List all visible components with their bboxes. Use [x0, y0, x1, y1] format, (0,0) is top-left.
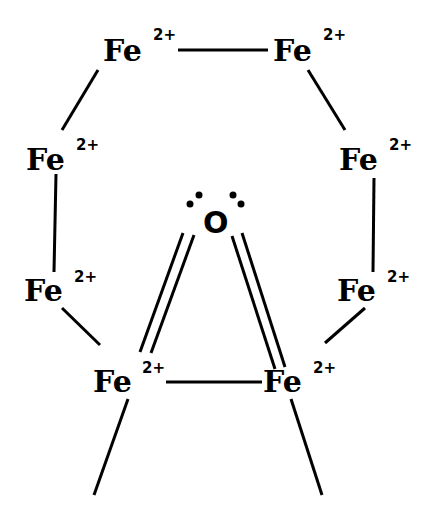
bond-mid-left-to-low-left — [54, 174, 56, 272]
fe-charge: 2+ — [153, 26, 176, 44]
atom-fe-mid-right: Fe 2+ — [339, 136, 412, 177]
lone-pair-right-dot-2 — [238, 201, 245, 208]
fe-charge: 2+ — [389, 136, 412, 154]
atom-fe-low-left: Fe 2+ — [24, 268, 97, 308]
atom-fe-bottom-right: Fe 2+ — [263, 359, 336, 399]
fe-charge: 2+ — [387, 268, 410, 286]
double-bond-right-a — [232, 236, 275, 369]
iron-oxide-ring-diagram: Fe 2+ Fe 2+ Fe 2+ Fe 2+ Fe 2+ Fe 2+ Fe 2… — [0, 0, 430, 524]
fe-symbol: Fe — [339, 142, 378, 177]
fe-symbol: Fe — [273, 33, 312, 68]
atom-oxygen: O — [187, 192, 245, 241]
bond-low-right-to-bottom-right — [325, 308, 365, 343]
bond-bottom-left-tail — [94, 399, 128, 495]
fe-symbol: Fe — [26, 142, 65, 177]
lone-pair-left-dot-1 — [187, 201, 194, 208]
double-bond-right-b — [242, 233, 285, 367]
fe-charge: 2+ — [313, 359, 336, 377]
fe-charge: 2+ — [76, 136, 99, 154]
bonds — [54, 50, 374, 495]
atom-fe-low-right: Fe 2+ — [337, 268, 410, 308]
double-bond-left-a — [140, 233, 183, 352]
bond-top-right-to-mid-right — [308, 70, 345, 130]
double-bond-left-b — [151, 235, 194, 353]
fe-symbol: Fe — [337, 273, 376, 308]
atom-fe-bottom-left: Fe 2+ — [93, 359, 165, 399]
fe-symbol: Fe — [103, 33, 142, 68]
fe-charge: 2+ — [142, 359, 165, 377]
fe-symbol: Fe — [263, 364, 302, 399]
bond-top-left-to-mid-left — [62, 70, 98, 130]
fe-symbol: Fe — [93, 364, 132, 399]
oxygen-symbol: O — [203, 205, 229, 240]
atom-fe-top-right: Fe 2+ — [273, 26, 346, 68]
atom-fe-mid-left: Fe 2+ — [26, 136, 99, 177]
bond-bottom-right-tail — [291, 399, 322, 495]
fe-charge: 2+ — [323, 26, 346, 44]
lone-pair-left-dot-2 — [196, 192, 203, 199]
fe-charge: 2+ — [74, 268, 97, 286]
atom-fe-top-left: Fe 2+ — [103, 26, 176, 68]
bond-low-left-to-bottom-left — [62, 308, 100, 345]
bond-mid-right-to-low-right — [373, 178, 374, 272]
fe-symbol: Fe — [24, 273, 63, 308]
lone-pair-right-dot-1 — [230, 192, 237, 199]
